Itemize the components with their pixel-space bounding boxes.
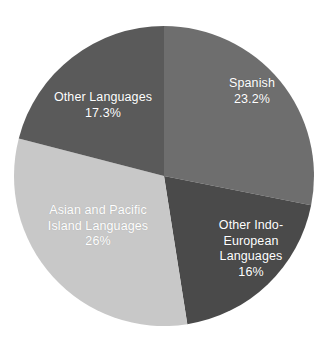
pie-slice — [164, 26, 314, 205]
pie-slice-group — [14, 26, 314, 326]
pie-chart: Spanish 23.2% Other Languages 17.3% Asia… — [0, 0, 330, 342]
pie-chart-canvas — [0, 0, 330, 342]
